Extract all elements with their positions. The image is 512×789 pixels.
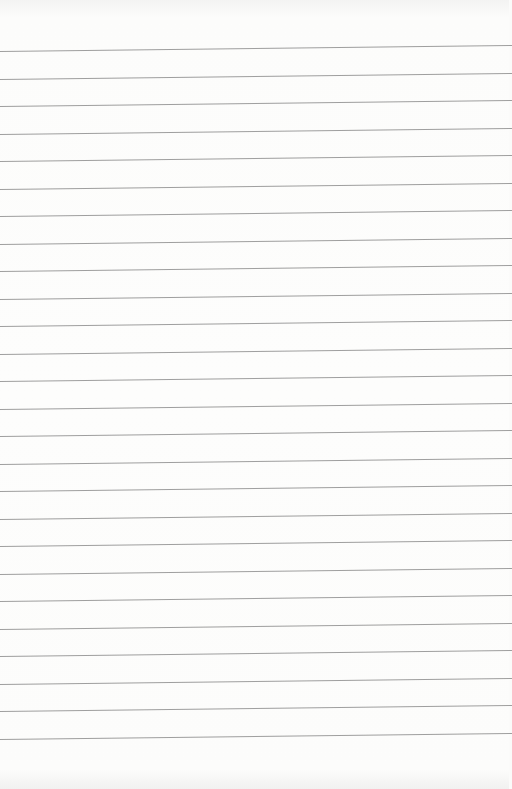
ruled-line: [0, 182, 512, 189]
ruled-line: [0, 485, 512, 492]
ruled-line: [0, 155, 512, 162]
ruled-line: [0, 540, 512, 547]
ruled-line: [0, 127, 512, 134]
ruled-line: [0, 320, 512, 327]
ruled-line: [0, 375, 512, 382]
ruled-line: [0, 622, 512, 629]
ruled-line: [0, 237, 512, 244]
ruled-line: [0, 265, 512, 272]
ruled-line: [0, 512, 512, 519]
ruled-line: [0, 292, 512, 299]
ruled-line: [0, 677, 512, 684]
ruled-line: [0, 430, 512, 437]
ruled-line: [0, 705, 512, 712]
ruled-line: [0, 347, 512, 354]
ruled-line: [0, 72, 512, 79]
ruled-line: [0, 402, 512, 409]
ruled-line: [0, 732, 512, 739]
ruled-line: [0, 100, 512, 107]
ruled-line: [0, 457, 512, 464]
ruled-line: [0, 45, 512, 52]
ruled-line: [0, 210, 512, 217]
ruled-line: [0, 595, 512, 602]
ruled-line: [0, 567, 512, 574]
ruled-line: [0, 650, 512, 657]
